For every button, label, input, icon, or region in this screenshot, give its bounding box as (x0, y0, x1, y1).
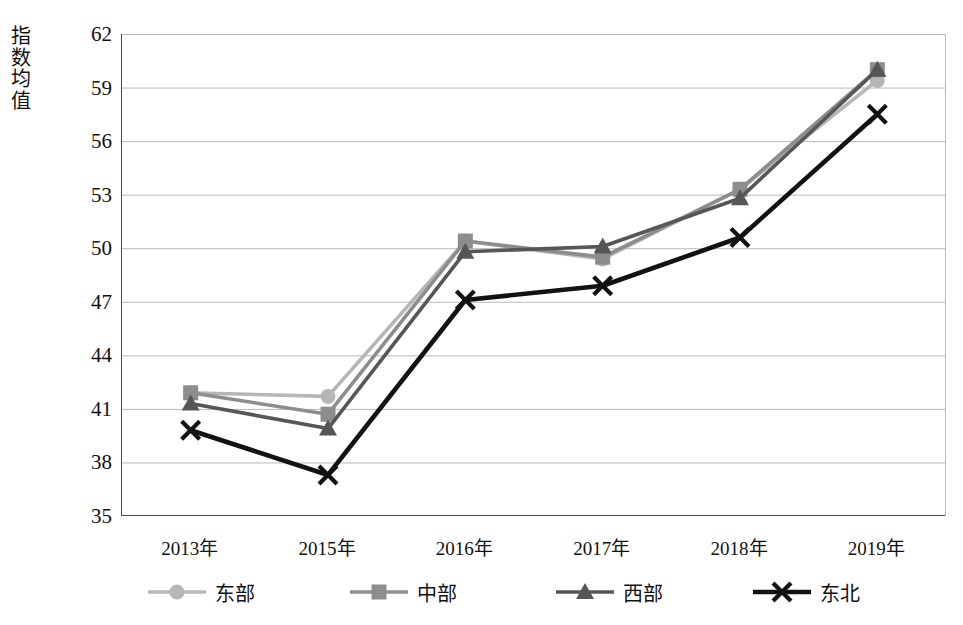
x-axis-tick-3: 2017年 (573, 533, 630, 560)
legend-item-东北[interactable]: 东北 (751, 575, 860, 609)
x-axis-tick-labels: 2013年2015年2016年2017年2018年2019年 (0, 533, 963, 563)
marker-中部-legend (371, 585, 386, 600)
y-axis-tick-41: 41 (66, 396, 112, 421)
line-chart: 指数均值 62595653504744413835 2013年2015年2016… (0, 0, 963, 625)
series-西部 (182, 61, 887, 436)
legend-swatch-cross-icon (751, 580, 813, 604)
x-axis-tick-2: 2016年 (436, 533, 493, 560)
x-axis-tick-4: 2018年 (711, 533, 768, 560)
y-axis-tick-35: 35 (66, 504, 112, 529)
x-axis-tick-0: 2013年 (161, 533, 218, 560)
marker-东北-5 (868, 105, 886, 123)
legend-label-中部: 中部 (414, 578, 457, 607)
x-axis-tick-1: 2015年 (299, 533, 356, 560)
y-axis-tick-labels: 62595653504744413835 (62, 0, 112, 625)
y-axis-tick-53: 53 (66, 182, 112, 207)
y-axis-tick-47: 47 (66, 289, 112, 314)
y-axis-tick-59: 59 (66, 75, 112, 100)
legend-item-东部[interactable]: 东部 (146, 575, 255, 609)
x-axis-tick-5: 2019年 (848, 533, 905, 560)
series-canvas (122, 34, 946, 516)
y-axis-tick-62: 62 (66, 22, 112, 47)
legend-label-东北: 东北 (817, 578, 860, 607)
plot-area (121, 34, 945, 516)
series-中部 (183, 62, 885, 422)
y-axis-tick-50: 50 (66, 236, 112, 261)
legend-item-中部[interactable]: 中部 (348, 575, 457, 609)
legend-label-西部: 西部 (620, 578, 663, 607)
chart-legend: 东部中部西部东北 (121, 575, 945, 609)
series-东部 (183, 73, 885, 404)
marker-东部-1 (321, 389, 336, 404)
line-东部 (191, 80, 878, 396)
legend-swatch-circle-icon (146, 580, 208, 604)
y-axis-tick-38: 38 (66, 450, 112, 475)
legend-item-西部[interactable]: 西部 (554, 575, 663, 609)
y-axis-tick-56: 56 (66, 129, 112, 154)
line-中部 (191, 70, 878, 415)
legend-swatch-square-icon (348, 580, 410, 604)
y-axis-tick-44: 44 (66, 343, 112, 368)
legend-label-东部: 东部 (212, 578, 255, 607)
y-axis-title: 指数均值 (8, 26, 34, 112)
marker-东部-legend (169, 585, 184, 600)
legend-swatch-triangle-icon (554, 580, 616, 604)
